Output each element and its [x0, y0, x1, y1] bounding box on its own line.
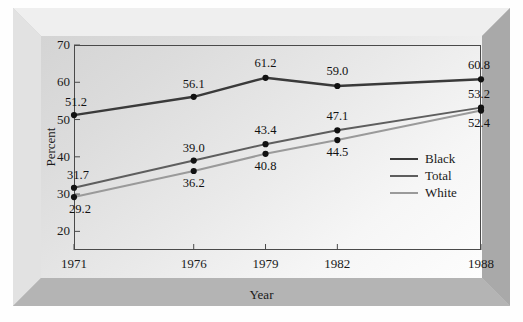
data-point-label: 31.7 — [56, 168, 100, 183]
x-axis-title: Year — [0, 287, 523, 303]
data-point-label: 59.0 — [315, 64, 359, 79]
data-point-label: 39.0 — [172, 141, 216, 156]
y-tick-label: 70 — [40, 37, 70, 53]
data-point-label: 53.2 — [457, 87, 501, 102]
frame-bevel-top — [13, 8, 510, 36]
plot-area — [74, 45, 481, 250]
y-tick-label: 60 — [40, 74, 70, 90]
x-tick-label: 1979 — [241, 256, 291, 272]
legend-label: Total — [425, 169, 452, 182]
data-point-label: 52.4 — [457, 116, 501, 131]
x-tick-label: 1971 — [49, 256, 99, 272]
legend-swatch-total — [390, 175, 418, 177]
data-point-label: 43.4 — [244, 123, 288, 138]
frame-bevel-left — [13, 8, 41, 306]
y-tick-label: 30 — [40, 186, 70, 202]
chart-figure: Percent Year 203040506070 19711976197919… — [0, 0, 523, 322]
x-tick-label: 1982 — [312, 256, 362, 272]
y-tick-label: 50 — [40, 112, 70, 128]
x-tick-label: 1988 — [456, 256, 506, 272]
data-point-label: 60.8 — [457, 58, 501, 73]
data-point-label: 47.1 — [315, 109, 359, 124]
legend-item-total[interactable]: Total — [390, 167, 457, 184]
data-point-label: 51.2 — [54, 95, 98, 110]
data-point-label: 56.1 — [172, 77, 216, 92]
legend-label: Black — [425, 152, 455, 165]
data-point-label: 29.2 — [58, 202, 102, 217]
legend-item-white[interactable]: White — [390, 184, 457, 201]
data-point-label: 44.5 — [315, 145, 359, 160]
legend-swatch-white — [390, 192, 418, 194]
y-tick-label: 40 — [40, 149, 70, 165]
legend-item-black[interactable]: Black — [390, 150, 457, 167]
x-tick-label: 1976 — [169, 256, 219, 272]
data-point-label: 61.2 — [244, 56, 288, 71]
legend-label: White — [425, 186, 457, 199]
legend-swatch-black — [390, 158, 418, 160]
y-tick-label: 20 — [40, 223, 70, 239]
data-point-label: 40.8 — [244, 159, 288, 174]
data-point-label: 36.2 — [172, 176, 216, 191]
chart-legend: BlackTotalWhite — [390, 150, 457, 201]
